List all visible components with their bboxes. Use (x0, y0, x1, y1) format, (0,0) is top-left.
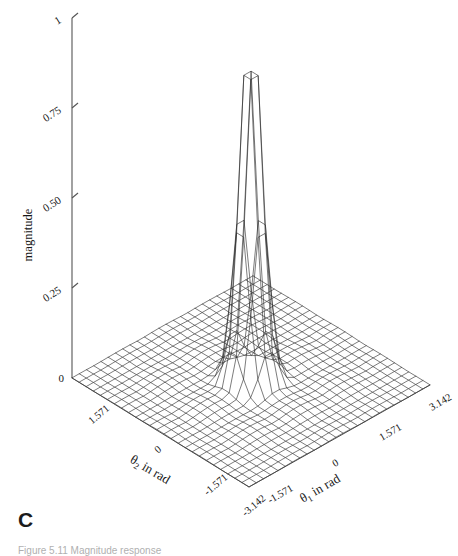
z-axis-label: magnitude (21, 208, 35, 261)
front-corner-tick: -3.142 (240, 492, 268, 518)
theta1-axis-label: θ1 in rad (297, 470, 344, 507)
z-axis-ticklabels: 1 0.75 0.50 0.25 0 (40, 14, 64, 384)
ytick-0: 0 (152, 443, 163, 455)
theta1-axis-ticklabels: -1.571 0 1.571 3.142 (266, 391, 453, 505)
ztick-075: 0.75 (40, 103, 63, 124)
xtick-m1571: -1.571 (266, 482, 295, 505)
ztick-025: 0.25 (40, 283, 63, 304)
panel-label: C (18, 508, 34, 532)
figure-caption: Figure 5.11 Magnitude response (18, 545, 438, 556)
ztick-050: 0.50 (40, 193, 63, 214)
theta2-axis-label: θ2 in rad (127, 451, 174, 488)
ztick-1: 1 (52, 14, 63, 27)
z-axis (72, 13, 78, 378)
ytick-m1571: -1.571 (202, 471, 230, 497)
xtick-3142: 3.142 (427, 391, 453, 412)
xtick-0: 0 (330, 457, 340, 469)
ztick-0: 0 (59, 372, 65, 384)
xtick-1571: 1.571 (377, 421, 403, 442)
ytick-1571: 1.571 (86, 403, 111, 427)
surface-mesh (72, 71, 430, 487)
